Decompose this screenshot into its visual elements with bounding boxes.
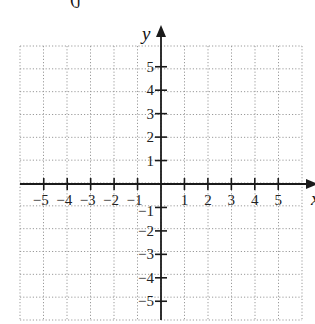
x-tick-label: −4 bbox=[56, 192, 72, 208]
y-tick-label: −4 bbox=[138, 270, 154, 286]
x-tick-label: −2 bbox=[103, 192, 119, 208]
x-tick-label: 1 bbox=[181, 192, 189, 208]
y-tick-label: −1 bbox=[138, 203, 154, 219]
y-axis-label: y bbox=[140, 23, 151, 44]
coordinate-grid: −5−4−3−2−11234554321−1−2−3−4−5 y x bbox=[0, 0, 315, 324]
x-tick-label: 4 bbox=[251, 192, 259, 208]
x-tick-label: 2 bbox=[204, 192, 212, 208]
y-tick-label: 5 bbox=[147, 59, 155, 75]
y-tick-label: −5 bbox=[138, 293, 154, 309]
x-axis-label: x bbox=[310, 188, 315, 209]
y-tick-label: −3 bbox=[138, 246, 154, 262]
coordinate-plane-figure: (j −5−4−3−2−11234554321−1−2−3−4−5 y x bbox=[0, 0, 315, 324]
y-tick-label: −2 bbox=[138, 223, 154, 239]
x-tick-label: −5 bbox=[33, 192, 49, 208]
y-tick-label: 2 bbox=[147, 129, 155, 145]
x-tick-label: 5 bbox=[275, 192, 283, 208]
y-tick-label: 3 bbox=[147, 106, 155, 122]
x-tick-label: −3 bbox=[80, 192, 96, 208]
y-tick-label: 1 bbox=[147, 153, 155, 169]
y-tick-label: 4 bbox=[147, 82, 155, 98]
y-axis-arrow-icon bbox=[156, 25, 166, 37]
part-label: (j bbox=[70, 0, 81, 9]
x-tick-label: 3 bbox=[228, 192, 236, 208]
